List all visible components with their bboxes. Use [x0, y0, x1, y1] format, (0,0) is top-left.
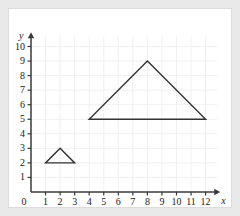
tick-marks [28, 47, 206, 196]
x-tick-label-10: 10 [172, 197, 182, 207]
y-tick-label-6: 6 [20, 100, 25, 110]
y-tick-label-3: 3 [20, 143, 25, 153]
plotted-shapes [46, 61, 206, 163]
origin-label: 0 [22, 197, 27, 207]
y-tick-label-7: 7 [20, 85, 25, 95]
x-tick-label-3: 3 [72, 197, 77, 207]
x-tick-label-8: 8 [145, 197, 150, 207]
x-axis-arrowhead [214, 189, 220, 195]
grid-lines [31, 36, 217, 192]
x-tick-label-1: 1 [43, 197, 48, 207]
coordinate-plot [0, 0, 240, 216]
x-axis-label: x [221, 196, 225, 206]
x-tick-label-4: 4 [87, 197, 92, 207]
y-axis-label: y [19, 31, 23, 41]
x-tick-label-11: 11 [186, 197, 196, 207]
x-tick-label-2: 2 [58, 197, 63, 207]
y-tick-label-9: 9 [20, 56, 25, 66]
y-axis-arrowhead [28, 32, 34, 38]
figure-container: 123456789101234567891011120yx [0, 0, 240, 216]
x-tick-label-5: 5 [101, 197, 106, 207]
x-tick-label-6: 6 [116, 197, 121, 207]
y-tick-label-10: 10 [15, 42, 25, 52]
x-tick-label-9: 9 [159, 197, 164, 207]
y-tick-label-4: 4 [20, 129, 25, 139]
y-tick-label-1: 1 [20, 172, 25, 182]
x-tick-label-12: 12 [201, 197, 211, 207]
x-tick-label-7: 7 [130, 197, 135, 207]
y-tick-label-2: 2 [20, 158, 25, 168]
y-tick-label-5: 5 [20, 114, 25, 124]
y-tick-label-8: 8 [20, 71, 25, 81]
